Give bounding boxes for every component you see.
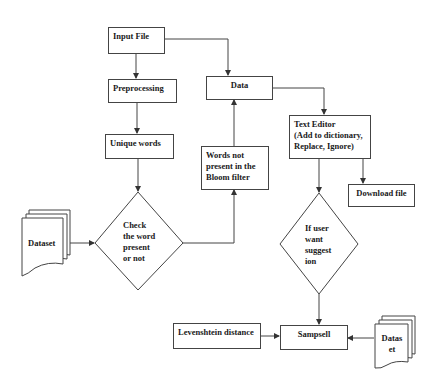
sampsell-label: Sampsell (298, 329, 331, 339)
dataset-right-label: Datas et (377, 333, 407, 355)
text-editor-label: Text Editor (Add to dictionary, Replace,… (294, 119, 363, 151)
unique-words-label: Unique words (110, 138, 161, 148)
levenshtein-label: Levenshtein distance (178, 327, 254, 337)
unique-words-box: Unique words (105, 134, 174, 159)
edge-input-to-data (164, 39, 228, 75)
edge-check-to-words (183, 190, 234, 243)
input-file-box: Input File (108, 27, 165, 54)
words-not-present-label: Words not present in the Bloom filter (206, 150, 255, 182)
preprocessing-label: Preprocessing (113, 83, 164, 93)
user-suggestion-label: If user want suggest ion (305, 223, 341, 267)
download-file-box: Download file (348, 184, 415, 207)
dataset-left-label: Dataset (28, 238, 62, 249)
sampsell-box: Sampsell (280, 325, 348, 350)
check-word-label: Check the word present or not (123, 220, 163, 264)
words-not-present-box: Words not present in the Bloom filter (201, 146, 269, 190)
preprocessing-box: Preprocessing (108, 79, 177, 103)
text-editor-box: Text Editor (Add to dictionary, Replace,… (289, 115, 371, 159)
data-box: Data (206, 76, 273, 100)
data-label: Data (231, 80, 248, 90)
download-file-label: Download file (356, 188, 406, 198)
edge-data-to-editor (272, 88, 324, 114)
levenshtein-box: Levenshtein distance (173, 323, 261, 349)
input-file-label: Input File (113, 31, 149, 41)
flowchart-canvas: Input File Preprocessing Unique words Da… (0, 0, 436, 384)
